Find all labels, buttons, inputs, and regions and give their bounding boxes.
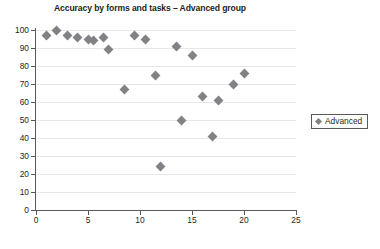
- legend-diamond-icon: [315, 118, 322, 125]
- y-axis-tick-label: 90: [3, 44, 29, 52]
- x-axis-tick-label: 0: [26, 216, 46, 224]
- x-axis-tick-label: 10: [130, 216, 150, 224]
- gridline: [36, 48, 296, 49]
- gridline: [36, 192, 296, 193]
- data-point-marker: [130, 30, 140, 40]
- y-axis-labels: 0102030405060708090100: [0, 0, 29, 249]
- gridline: [36, 84, 296, 85]
- gridline: [36, 120, 296, 121]
- data-point-marker: [104, 45, 114, 55]
- data-point-marker: [229, 79, 239, 89]
- y-axis-tick: [31, 156, 35, 157]
- y-axis-tick-label: 80: [3, 62, 29, 70]
- y-axis-tick-label: 40: [3, 134, 29, 142]
- data-point-marker: [171, 41, 181, 51]
- chart-legend[interactable]: Advanced: [311, 114, 368, 129]
- y-axis-tick: [31, 66, 35, 67]
- data-point-marker: [156, 162, 166, 172]
- data-point-marker: [73, 32, 83, 42]
- data-point-marker: [99, 32, 109, 42]
- gridline: [36, 30, 296, 31]
- data-point-marker: [239, 68, 249, 78]
- y-axis-tick-label: 30: [3, 152, 29, 160]
- y-axis-tick: [31, 174, 35, 175]
- data-point-marker: [52, 25, 62, 35]
- y-axis-tick-label: 100: [3, 26, 29, 34]
- data-point-marker: [151, 70, 161, 80]
- y-axis-tick: [31, 102, 35, 103]
- data-point-marker: [119, 84, 129, 94]
- y-axis-tick-label: 70: [3, 80, 29, 88]
- data-point-marker: [177, 115, 187, 125]
- gridline: [36, 156, 296, 157]
- y-axis-tick-label: 50: [3, 116, 29, 124]
- x-axis-tick-label: 25: [286, 216, 306, 224]
- y-axis-line: [35, 28, 36, 211]
- y-axis-tick: [31, 84, 35, 85]
- y-axis-tick: [31, 210, 35, 211]
- y-axis-tick-label: 20: [3, 170, 29, 178]
- y-axis-tick: [31, 192, 35, 193]
- gridline: [36, 102, 296, 103]
- x-axis-tick-label: 20: [234, 216, 254, 224]
- data-point-marker: [213, 95, 223, 105]
- x-axis-line: [35, 210, 297, 211]
- y-axis-tick-label: 60: [3, 98, 29, 106]
- data-point-marker: [187, 50, 197, 60]
- y-axis-tick: [31, 138, 35, 139]
- y-axis-tick: [31, 120, 35, 121]
- y-axis-tick: [31, 48, 35, 49]
- data-point-marker: [140, 34, 150, 44]
- data-point-marker: [197, 92, 207, 102]
- chart-title: Accuracy by forms and tasks – Advanced g…: [0, 3, 300, 13]
- data-point-marker: [41, 30, 51, 40]
- x-axis-tick-label: 5: [78, 216, 98, 224]
- scatter-chart: Accuracy by forms and tasks – Advanced g…: [0, 0, 380, 249]
- y-axis-tick-label: 10: [3, 188, 29, 196]
- x-axis-tick-label: 15: [182, 216, 202, 224]
- gridline: [36, 138, 296, 139]
- y-axis-tick-label: 0: [3, 206, 29, 214]
- data-point-marker: [208, 131, 218, 141]
- plot-area: [36, 30, 296, 210]
- gridline: [36, 174, 296, 175]
- legend-item-advanced: Advanced: [325, 117, 362, 125]
- data-point-marker: [62, 30, 72, 40]
- y-axis-tick: [31, 30, 35, 31]
- gridline: [36, 66, 296, 67]
